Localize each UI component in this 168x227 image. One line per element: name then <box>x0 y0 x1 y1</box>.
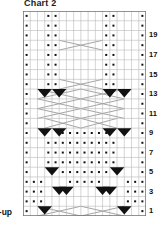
row-number-13: 13 <box>149 89 168 98</box>
chart-svg <box>23 11 146 216</box>
row-number-column: 191715131197531 <box>149 11 168 216</box>
setup-row-label: t-up <box>0 207 12 217</box>
row-number-15: 15 <box>149 70 168 79</box>
row-number-17: 17 <box>149 50 168 59</box>
row-number-1: 1 <box>149 206 168 215</box>
row-number-7: 7 <box>149 148 168 157</box>
knitting-chart-grid <box>23 11 146 216</box>
row-number-9: 9 <box>149 128 168 137</box>
row-number-5: 5 <box>149 167 168 176</box>
row-number-11: 11 <box>149 109 168 118</box>
row-number-3: 3 <box>149 187 168 196</box>
row-number-19: 19 <box>149 30 168 39</box>
chart-title: Chart 2 <box>24 0 56 8</box>
